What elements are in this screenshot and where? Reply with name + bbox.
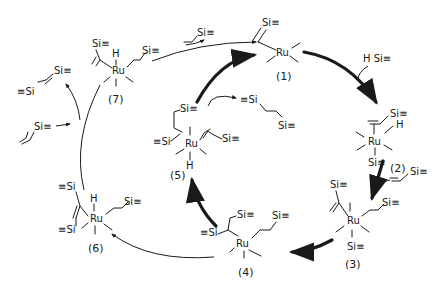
arrow-3-to-4: [292, 240, 332, 252]
arrow-product-release: [208, 96, 236, 106]
si-bond: [218, 230, 228, 234]
silyl-label: Si≡: [222, 133, 240, 144]
product-bis-silylethene: Si≡ ≡Si: [17, 65, 72, 97]
metal-label: Ru: [276, 47, 289, 58]
ligand-bonds: [82, 223, 112, 234]
silyl-label: Si≡: [54, 65, 72, 76]
silyl-label: Si≡: [410, 166, 428, 177]
arrow-4-to-6: [112, 234, 214, 258]
complex-label-7: (7): [108, 93, 124, 106]
ligand-bonds: [104, 77, 133, 86]
complex-label-6: (6): [88, 242, 104, 255]
hydride-label: H: [186, 160, 194, 171]
complex-label-4: (4): [238, 266, 254, 279]
si-bond: [171, 134, 180, 141]
ligand-bonds: [176, 149, 206, 160]
silyl-label-left: ≡Si: [58, 224, 76, 235]
metal-label: Ru: [185, 138, 198, 149]
silyl-label: Si≡: [180, 103, 198, 114]
reagent-vinylsilane-left: Si≡: [20, 121, 52, 144]
vinyl-bonds: [184, 36, 197, 42]
complex-5: Si≡ ≡Si Ru Si≡ H (5): [153, 103, 240, 182]
silyl-label-left: ≡Si: [200, 227, 218, 238]
metal-label: Ru: [236, 238, 249, 249]
metal-label: Ru: [112, 65, 125, 76]
vinyl-ligand: [200, 129, 222, 140]
complex-label-1: (1): [276, 70, 292, 83]
vinyl-ligand: [330, 191, 348, 216]
arrow-6-to-7: [80, 85, 100, 190]
complex-label-5: (5): [170, 169, 186, 182]
silyl-label: Si≡: [272, 210, 290, 221]
ligand-bonds: [230, 248, 261, 258]
silyl-label: Si≡: [92, 38, 110, 49]
silyl-label-left: ≡Si: [17, 86, 35, 97]
product-bis-silylethane: ≡Si Si≡: [240, 94, 296, 131]
vinyl-bonds: [390, 174, 408, 181]
silyl-label: Si≡: [124, 196, 142, 207]
silyl-label: Si≡: [197, 27, 215, 38]
hydride-label: H: [396, 119, 404, 130]
silylethene-ligand: [73, 192, 88, 218]
silyl-label: Si≡: [142, 45, 160, 56]
ethene-bonds: [38, 74, 53, 84]
complex-label-3: (3): [345, 258, 361, 271]
ethane-bonds: [260, 104, 282, 117]
complex-7: Si≡ H Ru Si≡ (7): [92, 38, 160, 106]
arrow-4-to-5: [192, 180, 216, 226]
vinyl-ligand: [92, 50, 112, 68]
silyl-label: Si≡: [347, 241, 365, 252]
silyl-label-left: ≡Si: [58, 181, 76, 192]
silyl-label-left: ≡Si: [153, 136, 171, 147]
complex-label-2: (2): [390, 162, 406, 175]
arrow-bis-silylethene-out: [66, 84, 80, 120]
silyl-label: Si≡: [330, 179, 348, 190]
silyl-label: Si≡: [390, 108, 408, 119]
silyl-label: Si≡: [262, 17, 280, 28]
vinyl-ligand: [368, 116, 388, 134]
ligand-bonds: [336, 226, 369, 237]
silyl-label: Si≡: [237, 209, 255, 220]
silyl-label: Si≡: [34, 121, 52, 132]
vinyl-ligand: [253, 28, 276, 50]
silyl-label: Si≡: [278, 120, 296, 131]
silyl-label-left: ≡Si: [240, 94, 258, 105]
silylethyl-ligand: [252, 222, 276, 238]
silyl-label: Si≡: [382, 197, 400, 208]
arrow-hydrosilane-in: [358, 66, 368, 80]
reagent-vinylsilane-top: Si≡: [184, 27, 215, 42]
complex-4: Si≡ ≡Si Ru Si≡ (4): [200, 209, 290, 279]
vinyl-bonds: [20, 132, 34, 144]
metal-label: Ru: [90, 213, 103, 224]
hydride-bond: [385, 126, 393, 133]
arrow-vinylsilane-left-in: [56, 124, 70, 126]
metal-label: Ru: [347, 215, 360, 226]
hydrosilane-label: H Si≡: [363, 53, 391, 64]
hydride-label: H: [90, 193, 98, 204]
silylethyl-ligand: [362, 204, 384, 216]
metal-label: Ru: [368, 136, 381, 147]
complex-1: Si≡ Ru (1): [253, 17, 300, 83]
hydride-label: H: [112, 48, 120, 59]
complex-3: Si≡ Ru Si≡ Si≡ (3): [330, 179, 400, 271]
catalytic-cycle-diagram: Si≡ Ru (1) Si≡ H Ru Si≡ (2) Si≡ Si≡ Ru S…: [0, 0, 442, 290]
